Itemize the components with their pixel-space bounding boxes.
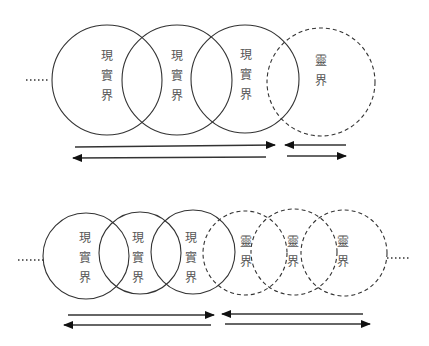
- label-char: 靈: [285, 232, 301, 252]
- label-char: 現: [77, 228, 93, 248]
- label-char: 界: [238, 85, 254, 105]
- label-char: 界: [169, 86, 185, 106]
- label-char: 現: [169, 46, 185, 66]
- label-char: 實: [238, 65, 254, 85]
- label-char: 界: [99, 86, 115, 106]
- label-char: 現: [238, 45, 254, 65]
- label-char: 現: [130, 228, 146, 248]
- label-char: 界: [313, 71, 329, 91]
- diagram-graphics: [0, 0, 429, 346]
- bottom-spirit-world-label-3: 靈 界: [335, 232, 351, 272]
- label-char: 界: [335, 252, 351, 272]
- label-char: 界: [285, 252, 301, 272]
- label-char: 實: [130, 248, 146, 268]
- label-char: 實: [169, 66, 185, 86]
- label-char: 靈: [313, 51, 329, 71]
- label-char: 界: [77, 268, 93, 288]
- label-char: 界: [238, 252, 254, 272]
- diagram-canvas: 現 實 界 現 實 界 現 實 界 靈 界 現 實 界 現 實 界 現 實 界 …: [0, 0, 429, 346]
- bottom-real-world-label-3: 現 實 界: [183, 228, 199, 288]
- bottom-real-world-label-1: 現 實 界: [77, 228, 93, 288]
- label-char: 靈: [335, 232, 351, 252]
- bottom-spirit-world-label-1: 靈 界: [238, 232, 254, 272]
- label-char: 靈: [238, 232, 254, 252]
- bottom-real-world-label-2: 現 實 界: [130, 228, 146, 288]
- bottom-spirit-world-label-2: 靈 界: [285, 232, 301, 272]
- label-char: 現: [99, 46, 115, 66]
- top-real-world-label-2: 現 實 界: [169, 46, 185, 106]
- top-real-world-label-3: 現 實 界: [238, 45, 254, 105]
- label-char: 現: [183, 228, 199, 248]
- top-row: [26, 25, 375, 158]
- label-char: 實: [99, 66, 115, 86]
- label-char: 實: [183, 248, 199, 268]
- top-arrow-left-real: [73, 157, 266, 158]
- label-char: 實: [77, 248, 93, 268]
- label-char: 界: [183, 268, 199, 288]
- top-arrow-right-real: [75, 145, 275, 147]
- label-char: 界: [130, 268, 146, 288]
- top-spirit-world-label: 靈 界: [313, 51, 329, 91]
- top-real-world-label-1: 現 實 界: [99, 46, 115, 106]
